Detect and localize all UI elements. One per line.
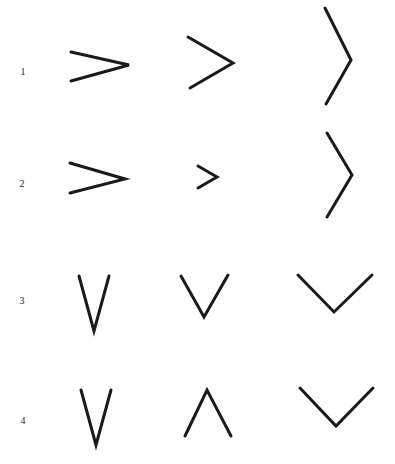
chevron-down-narrow-icon [79,276,109,331]
row-2 [70,133,352,217]
chevron-up-medium-icon [185,390,231,436]
row-4 [81,388,373,445]
row-1 [71,8,351,104]
row-3 [79,275,372,331]
chevron-down-wide-icon [298,275,372,312]
stimulus-figure: 1 2 3 4 [0,0,395,464]
chevron-right-tall-icon [325,8,351,104]
chevron-right-wide-icon [70,163,125,193]
chevron-right-wide-icon [71,52,129,81]
chevron-down-wide-icon [300,388,373,426]
shapes-layer [0,0,395,464]
chevron-down-medium-icon [181,275,228,317]
chevron-down-narrow-icon [81,390,111,445]
chevron-right-medium-icon [188,37,233,88]
chevron-right-tall-icon [327,133,352,217]
chevron-right-small-icon [198,166,217,188]
